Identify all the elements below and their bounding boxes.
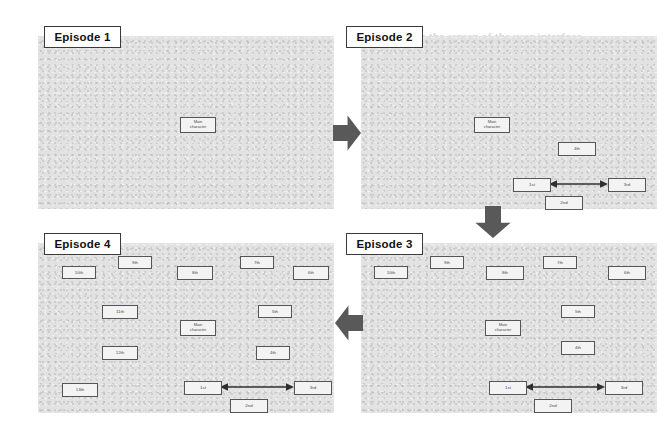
episode-3-main-character[interactable]: Main character	[485, 320, 521, 336]
episode-2-node-2nd[interactable]: 2nd	[545, 196, 583, 210]
episode-4-main-character[interactable]: Main character	[180, 320, 216, 336]
flow-arrow-down	[473, 206, 513, 238]
episode-4-node-7th[interactable]: 7th	[240, 256, 274, 269]
link-1st-3rd	[525, 381, 605, 393]
link-1st-3rd	[220, 381, 294, 393]
episode-title-episode-4: Episode 4	[44, 233, 121, 255]
episode-4-node-11th[interactable]: 11th	[102, 305, 138, 319]
episode-4-node-13th[interactable]: 13th	[62, 383, 98, 397]
episode-3-node-10th[interactable]: 10th	[374, 266, 408, 279]
episode-4-node-6th[interactable]: 6th	[293, 266, 329, 280]
episode-3-node-9th[interactable]: 9th	[430, 256, 464, 269]
episode-4-node-3rd[interactable]: 3rd	[294, 381, 332, 395]
diagram-stage: Main characterEpisode 1Main character4th…	[0, 0, 672, 444]
episode-2-main-character[interactable]: Main character	[474, 117, 510, 133]
episode-3-node-1st[interactable]: 1st	[489, 381, 527, 395]
episode-4-node-5th[interactable]: 5th	[258, 305, 292, 318]
episode-3-node-4th[interactable]: 4th	[561, 341, 595, 355]
episode-3-node-2nd[interactable]: 2nd	[534, 399, 572, 413]
episode-2-node-1st[interactable]: 1st	[513, 178, 551, 192]
episode-4-node-2nd[interactable]: 2nd	[230, 399, 268, 413]
link-1st-3rd	[549, 178, 608, 190]
episode-4-node-1st[interactable]: 1st	[184, 381, 222, 395]
episode-2-node-3rd[interactable]: 3rd	[608, 178, 646, 192]
episode-3-node-7th[interactable]: 7th	[543, 256, 577, 269]
episode-title-episode-2: Episode 2	[346, 26, 423, 48]
episode-3-node-3rd[interactable]: 3rd	[605, 381, 643, 395]
episode-4-node-10th[interactable]: 10th	[62, 266, 96, 279]
episode-title-episode-1: Episode 1	[44, 26, 121, 48]
flow-arrow-right	[333, 113, 361, 153]
episode-4-node-8th[interactable]: 8th	[177, 266, 213, 280]
episode-3-node-5th[interactable]: 5th	[561, 305, 595, 318]
episode-1-main-character[interactable]: Main character	[180, 117, 216, 133]
episode-4-node-9th[interactable]: 9th	[118, 256, 152, 269]
episode-3-node-8th[interactable]: 8th	[486, 266, 524, 280]
episode-4-node-12th[interactable]: 12th	[102, 346, 138, 360]
episode-2-node-4th[interactable]: 4th	[558, 142, 596, 156]
flow-arrow-left	[335, 303, 363, 343]
episode-title-episode-3: Episode 3	[346, 233, 423, 255]
episode-3-node-6th[interactable]: 6th	[608, 266, 646, 280]
episode-4-node-4th[interactable]: 4th	[256, 346, 290, 360]
